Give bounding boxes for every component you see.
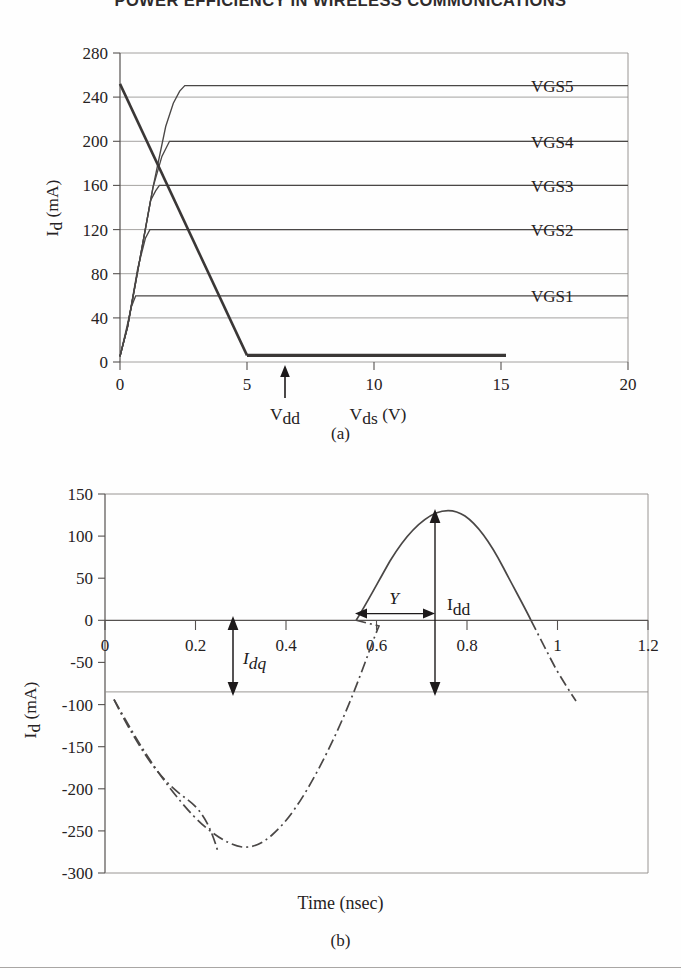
y-tick-label: -150 (62, 738, 93, 757)
y-tick-label: 280 (83, 44, 109, 63)
x-tick-label: 1.2 (637, 636, 658, 655)
y-ticks-a (113, 53, 120, 362)
y-tick-labels-b: 150 100 50 0 -50 -100 -150 -200 -250 -30… (62, 485, 93, 883)
Idq-arrow-head-bottom-icon (228, 682, 239, 696)
x-origin-label: 0 (101, 636, 110, 655)
series-label-vgs5: VGS5 (531, 77, 574, 96)
figure-b: 150 100 50 0 -50 -100 -150 -200 -250 -30… (0, 460, 681, 890)
y-axis-title-unit: (mA) (42, 179, 62, 221)
figure-a-svg: 280 240 200 160 120 80 40 0 Id (mA) (0, 0, 681, 400)
x-tick-label: 0 (116, 375, 125, 394)
waveform-positive-lobe (356, 511, 531, 621)
waveform-b (114, 511, 576, 852)
y-axis-title-sub: d (46, 222, 66, 231)
Y-arrow-head-left-icon (355, 609, 367, 619)
x-ticks-a (120, 362, 628, 370)
figure-page: POWER EFFICIENCY IN WIRELESS COMMUNICATI… (0, 0, 681, 980)
series-label-vgs4: VGS4 (531, 133, 574, 152)
annotation-Y-label: Y (389, 588, 401, 608)
y-tick-label: 160 (83, 176, 109, 195)
vdd-arrow-head-icon (280, 365, 290, 377)
y-tick-label: 50 (76, 569, 93, 588)
annotation-Idd-label: Idd (447, 594, 471, 619)
Idd-arrow-head-bottom-icon (430, 682, 441, 696)
y-tick-label: 120 (83, 221, 109, 240)
y-axis-title-a: Id (mA) (42, 179, 66, 236)
Idq-arrow-head-top-icon (228, 616, 239, 630)
x-tick-label: 15 (493, 375, 510, 394)
x-tick-label: 0.2 (185, 636, 206, 655)
y-tick-label: 200 (83, 132, 109, 151)
curve-vgs3 (120, 185, 628, 356)
svg-text:Id (mA): Id (mA) (20, 681, 44, 738)
x-tick-label: 10 (366, 375, 383, 394)
Y-arrow-head-right-icon (423, 609, 435, 619)
y-ticks-b (98, 494, 105, 873)
x-tick-label: 0.8 (456, 636, 477, 655)
y-tick-label: -300 (62, 864, 93, 883)
waveform-negative-left (114, 700, 218, 853)
plot-frame-b (105, 494, 648, 873)
y-tick-labels-a: 280 240 200 160 120 80 40 0 (83, 44, 109, 372)
x-tick-label: 0.4 (275, 636, 297, 655)
y-tick-label: 100 (68, 527, 94, 546)
x-axis-title-b: Time (nsec) (0, 893, 681, 914)
x-tick-label: 5 (243, 375, 252, 394)
gridlines-a (120, 53, 628, 362)
y-tick-label: -50 (70, 653, 93, 672)
y-axis-title-sub: d (24, 724, 44, 733)
y-tick-label: 80 (91, 265, 108, 284)
y-axis-title-unit: (mA) (20, 681, 40, 723)
waveform-negative-right (531, 620, 576, 701)
y-tick-label: -100 (62, 696, 93, 715)
series-label-vgs3: VGS3 (531, 177, 574, 196)
y-tick-label: -200 (62, 780, 93, 799)
x-tick-label: 20 (620, 375, 637, 394)
y-tick-label: 150 (68, 485, 94, 504)
annotation-Idq-b: Idq (228, 616, 267, 696)
curve-load-line (120, 84, 247, 356)
y-tick-label: 0 (100, 353, 109, 372)
annotation-Idd-b: Idd (430, 509, 471, 696)
x-tick-label: 1 (553, 636, 562, 655)
series-label-vgs2: VGS2 (531, 221, 574, 240)
svg-text:Id (mA): Id (mA) (42, 179, 66, 236)
y-tick-label: 0 (85, 611, 94, 630)
y-tick-label: -250 (62, 822, 93, 841)
caption-a: (a) (0, 424, 681, 444)
x-tick-labels-b: 0 0.2 0.4 0.6 0.8 1 1.2 (101, 636, 659, 655)
y-tick-label: 40 (91, 309, 108, 328)
plot-area-a (120, 53, 628, 362)
figure-a: 280 240 200 160 120 80 40 0 Id (mA) (0, 0, 681, 400)
x-tick-labels-a: 0 5 10 15 20 (116, 375, 637, 394)
annotation-Idq-label: Idq (242, 648, 267, 673)
y-axis-title-b: Id (mA) (20, 681, 44, 738)
caption-b: (b) (0, 931, 681, 951)
page-bottom-rule (0, 967, 681, 968)
series-label-vgs1: VGS1 (531, 287, 574, 306)
vdd-annotation-a (280, 365, 290, 398)
figure-b-svg: 150 100 50 0 -50 -100 -150 -200 -250 -30… (0, 460, 681, 890)
load-line-a (120, 84, 247, 356)
y-tick-label: 240 (83, 88, 109, 107)
series-labels-a: VGS5 VGS4 VGS3 VGS2 VGS1 (531, 77, 574, 306)
